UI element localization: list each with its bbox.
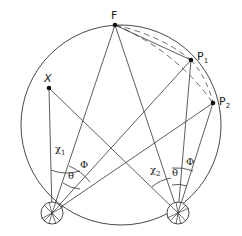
diagram-canvas — [0, 0, 242, 236]
label-theta2: θ — [172, 168, 178, 178]
point-p2 — [211, 101, 216, 106]
line-d2-f — [115, 25, 178, 213]
label-chi2: χ2 — [150, 165, 161, 178]
label-f: F — [111, 10, 117, 21]
point-x — [47, 86, 52, 91]
point-p1 — [189, 58, 194, 63]
label-chi1: χ1 — [55, 144, 66, 157]
label-p1: P1 — [197, 51, 208, 65]
detector-2 — [167, 202, 189, 224]
label-phi2: Φ — [186, 157, 194, 167]
label-x: X — [44, 73, 52, 84]
label-theta1: θ — [68, 171, 74, 181]
detector-1 — [41, 202, 63, 224]
line-d1-f — [52, 25, 115, 213]
line-d2-p1 — [178, 60, 191, 213]
outer-circle — [21, 25, 221, 225]
arc-theta1 — [63, 183, 80, 189]
arc-theta2 — [172, 184, 187, 186]
label-phi1: Φ — [80, 160, 88, 170]
line-d2-x — [49, 88, 178, 213]
point-f — [113, 23, 118, 28]
label-p2: P2 — [219, 96, 230, 110]
line-d2-p2 — [178, 103, 213, 213]
